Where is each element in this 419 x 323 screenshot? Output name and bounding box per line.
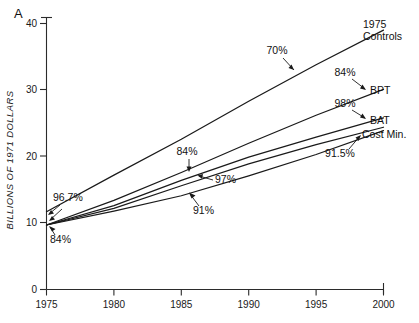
series-label-1975-controls-line1: 1975	[363, 18, 387, 30]
x-tick-label-2000: 2000	[372, 299, 395, 310]
annotation-98pct-bat-arrow	[360, 114, 366, 120]
y-axis-ticks: 40 30 20 10 0	[26, 18, 47, 295]
caption-fragment	[0, 317, 419, 323]
series-label-bpt: BPT	[370, 84, 391, 96]
annotation-84pct-mid: 84%	[176, 145, 197, 157]
x-tick-label-1980: 1980	[103, 299, 126, 310]
series-line-bat	[47, 118, 384, 225]
annotation-91p5pct: 91.5%	[325, 147, 355, 159]
annotation-70pct: 70%	[266, 44, 287, 56]
annotation-97pct: 97%	[215, 173, 236, 185]
panel-label: A	[14, 6, 23, 21]
x-tick-label-1975: 1975	[35, 299, 58, 310]
y-tick-label-20: 20	[26, 151, 38, 162]
y-tick-label-40: 40	[26, 18, 38, 29]
y-axis-title: BILLIONS OF 1971 DOLLARS	[4, 90, 15, 229]
annotation-84pct-start-arrow	[49, 226, 56, 232]
series-label-1975-controls-line2: Controls	[363, 30, 402, 42]
annotation-91pct: 91%	[193, 204, 214, 216]
annotation-98pct-bat: 98%	[334, 97, 355, 109]
annotation-91pct-arrow	[189, 193, 196, 199]
annotation-84pct-start: 84%	[50, 233, 71, 245]
series-lines	[47, 30, 384, 225]
x-tick-label-1990: 1990	[238, 299, 261, 310]
figure-panel: A 40 30 20 10 0	[0, 0, 419, 323]
y-tick-label-0: 0	[31, 284, 37, 295]
y-tick-label-10: 10	[26, 217, 38, 228]
y-tick-label-30: 30	[26, 84, 38, 95]
x-axis-ticks: 1975 1980 1985 1990 1995 2000	[35, 290, 395, 311]
series-label-bat: BAT	[370, 114, 390, 126]
x-tick-label-1985: 1985	[170, 299, 193, 310]
line-chart: A 40 30 20 10 0	[0, 0, 419, 323]
x-tick-label-1995: 1995	[305, 299, 328, 310]
annotation-96p7pct: 96.7%	[53, 191, 83, 203]
series-label-cost-min: Cost Min.	[362, 128, 406, 140]
annotation-84pct-bpt: 84%	[334, 66, 355, 78]
